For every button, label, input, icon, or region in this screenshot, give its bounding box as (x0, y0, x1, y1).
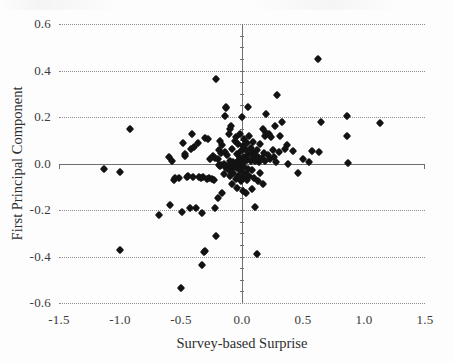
data-point (258, 180, 266, 188)
x-axis-tick-label: 0.5 (279, 313, 327, 326)
data-point (343, 112, 351, 120)
data-point (218, 188, 226, 196)
x-axis-end-tick (59, 164, 60, 169)
data-point (376, 119, 384, 127)
data-point (315, 148, 323, 156)
data-point (212, 74, 220, 82)
scan-artifact (0, 0, 453, 10)
x-axis-label: Survey-based Surprise (59, 334, 425, 352)
data-point (116, 168, 124, 176)
data-point (126, 124, 134, 132)
y-axis-minor-tick (240, 210, 244, 211)
data-point (100, 165, 108, 173)
data-point (278, 117, 286, 125)
y-axis-minor-tick (240, 245, 244, 246)
data-point (244, 103, 252, 111)
x-axis-tick-label: 0.0 (218, 313, 266, 326)
data-point (294, 169, 302, 177)
x-axis-tick-label: 1.0 (340, 313, 388, 326)
data-point (116, 245, 124, 253)
scatter-plot-figure: First Principal Component Survey-based S… (0, 0, 453, 363)
x-axis-tick-label: -1.0 (96, 313, 144, 326)
y-axis-tick-label: -0.6 (9, 296, 51, 309)
x-axis-tick-label: -0.5 (157, 313, 205, 326)
data-point (212, 231, 220, 239)
gridline-horizontal (59, 303, 425, 304)
y-axis-minor-tick (240, 71, 244, 72)
data-point (343, 131, 351, 139)
data-point (188, 129, 196, 137)
y-axis-minor-tick (240, 291, 244, 292)
y-axis-minor-tick (240, 257, 244, 258)
x-axis-tick-label: 1.5 (401, 313, 449, 326)
y-axis-minor-tick (240, 82, 244, 83)
y-axis-minor-tick (240, 59, 244, 60)
data-point (289, 147, 297, 155)
data-point (155, 211, 163, 219)
y-axis-tick-label: -0.2 (9, 203, 51, 216)
data-point (317, 117, 325, 125)
data-point (273, 91, 281, 99)
data-point (284, 160, 292, 168)
data-point (177, 284, 185, 292)
y-axis-minor-tick (240, 198, 244, 199)
x-axis-tick-label: -1.5 (35, 313, 83, 326)
data-point (344, 159, 352, 167)
y-axis-minor-tick (240, 280, 244, 281)
y-axis-minor-tick (240, 94, 244, 95)
data-point (272, 157, 280, 165)
data-point (179, 138, 187, 146)
data-point (166, 201, 174, 209)
x-axis-end-tick (424, 164, 425, 169)
data-point (238, 113, 246, 121)
plot-area (59, 24, 425, 303)
data-point (197, 260, 205, 268)
y-axis-tick-label: 0.0 (9, 157, 51, 170)
data-point (276, 132, 284, 140)
y-axis-minor-tick (240, 222, 244, 223)
data-point (267, 133, 275, 141)
y-axis-minor-tick (240, 268, 244, 269)
y-axis-tick-label: 0.2 (9, 110, 51, 123)
y-axis-minor-tick (240, 233, 244, 234)
data-point (271, 122, 279, 130)
y-axis-tick-label: -0.4 (9, 250, 51, 263)
y-axis-tick-label: 0.6 (9, 17, 51, 30)
data-point (221, 112, 229, 120)
y-axis-minor-tick (240, 47, 244, 48)
data-point (305, 158, 313, 166)
y-axis-minor-tick (240, 36, 244, 37)
y-axis-tick-label: 0.4 (9, 64, 51, 77)
data-point (313, 55, 321, 63)
